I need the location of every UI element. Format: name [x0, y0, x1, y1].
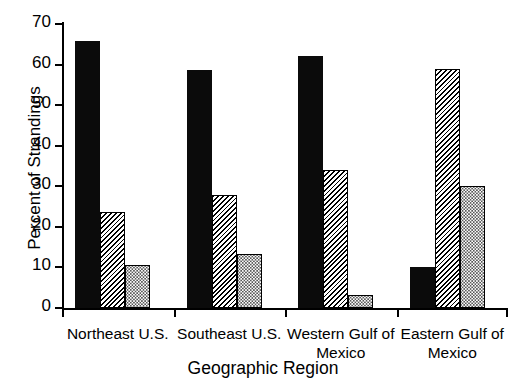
- y-axis-tick: 0: [55, 307, 62, 309]
- y-axis-tick: 70: [55, 23, 62, 25]
- y-axis-tick: 10: [55, 266, 62, 268]
- y-axis-tick-label: 50: [17, 93, 51, 113]
- y-axis-tick: 50: [55, 104, 62, 106]
- y-axis-tick: 40: [55, 145, 62, 147]
- y-axis-tick-label: 20: [17, 215, 51, 235]
- x-axis-category-label: Eastern Gulf ofMexico: [392, 324, 514, 362]
- bar: [348, 295, 373, 308]
- x-axis-tick: [62, 310, 64, 317]
- bar: [125, 265, 150, 308]
- plot-area: 010203040506070 Northeast U.S.Southeast …: [62, 22, 508, 310]
- x-axis-tick: [174, 310, 176, 317]
- y-axis-tick-label: 60: [17, 53, 51, 73]
- bar: [460, 186, 485, 308]
- x-axis-tick: [397, 310, 399, 317]
- y-axis-tick: 20: [55, 226, 62, 228]
- x-axis-tick: [506, 310, 508, 317]
- x-axis-title: Geographic Region: [0, 358, 526, 379]
- bar: [410, 267, 435, 308]
- y-axis-line: [62, 22, 64, 310]
- bar-chart-figure: Percent of Strandings 010203040506070 No…: [0, 0, 526, 392]
- x-axis-category-label: Southeast U.S.: [169, 324, 291, 343]
- y-axis-tick-label: 0: [17, 296, 51, 316]
- bar: [212, 195, 237, 308]
- x-axis-category-label-line: Eastern Gulf of: [392, 324, 514, 343]
- bar: [187, 70, 212, 308]
- bar: [435, 69, 460, 308]
- x-axis-tick: [285, 310, 287, 317]
- bar: [75, 41, 100, 308]
- bar: [298, 56, 323, 308]
- y-axis-tick-label: 30: [17, 174, 51, 194]
- y-axis-tick: 60: [55, 64, 62, 66]
- y-axis-tick: 30: [55, 185, 62, 187]
- y-axis-tick-label: 70: [17, 12, 51, 32]
- x-axis-category-label: Western Gulf ofMexico: [280, 324, 402, 362]
- x-axis-category-label-line: Western Gulf of: [280, 324, 402, 343]
- bar: [323, 170, 348, 308]
- bar: [237, 254, 262, 308]
- y-axis-tick-label: 10: [17, 255, 51, 275]
- bar: [100, 212, 125, 308]
- y-axis-tick-label: 40: [17, 134, 51, 154]
- x-axis-category-label: Northeast U.S.: [57, 324, 179, 343]
- x-axis-category-label-line: Northeast U.S.: [57, 324, 179, 343]
- x-axis-category-label-line: Southeast U.S.: [169, 324, 291, 343]
